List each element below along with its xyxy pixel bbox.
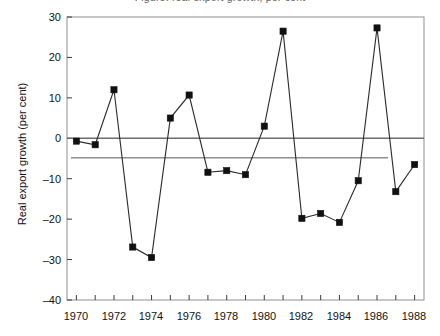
x-axis-tick-labels: 1970 1972 1974 1976 1978 1980 1982 1984 …: [0, 0, 440, 336]
x-tick-1988: 1988: [392, 311, 436, 322]
chart-figure: Figure: real export growth, per cent Rea…: [0, 0, 440, 336]
